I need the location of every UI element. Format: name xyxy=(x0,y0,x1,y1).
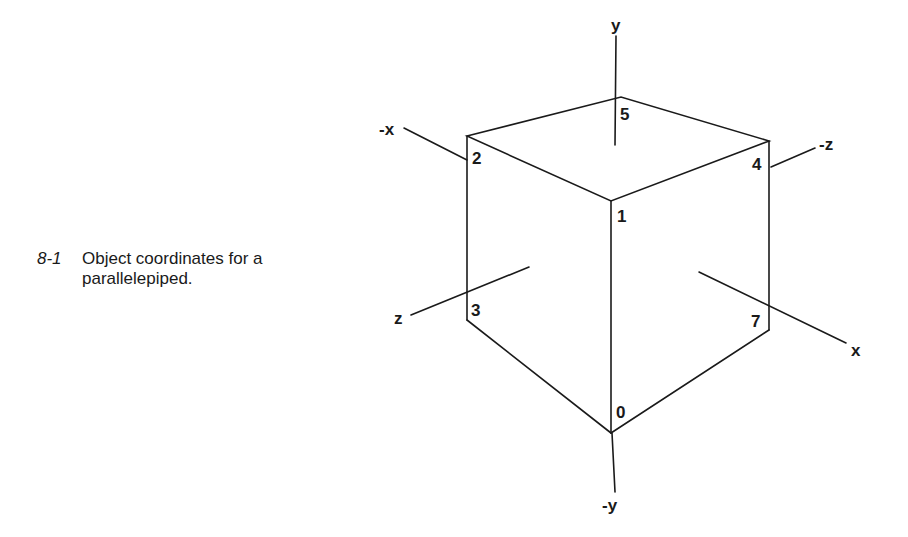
neg-z-axis-line xyxy=(771,148,815,167)
edge-3-0 xyxy=(467,320,611,433)
neg-x-axis-line xyxy=(404,128,467,160)
neg-y-axis-line xyxy=(612,433,615,492)
vertex-1-label: 1 xyxy=(617,207,626,226)
edge-0-7 xyxy=(611,330,769,433)
vertex-7-label: 7 xyxy=(751,312,760,331)
z-axis-line xyxy=(411,267,529,315)
vertex-2-label: 2 xyxy=(472,149,481,168)
y-axis-line xyxy=(615,36,616,145)
neg-x-axis-label: -x xyxy=(379,120,395,139)
z-axis-label: z xyxy=(394,309,403,328)
vertex-5-label: 5 xyxy=(620,105,629,124)
vertex-3-label: 3 xyxy=(471,301,480,320)
y-axis-label: y xyxy=(611,16,621,35)
parallelepiped-diagram: y -y -x x z -z 5 2 4 1 3 7 0 xyxy=(0,0,908,537)
vertex-4-label: 4 xyxy=(752,155,762,174)
x-axis-line xyxy=(699,272,846,343)
top-face xyxy=(467,97,769,201)
neg-y-axis-label: -y xyxy=(602,496,618,515)
vertex-0-label: 0 xyxy=(616,403,625,422)
neg-z-axis-label: -z xyxy=(819,135,833,154)
x-axis-label: x xyxy=(851,341,861,360)
